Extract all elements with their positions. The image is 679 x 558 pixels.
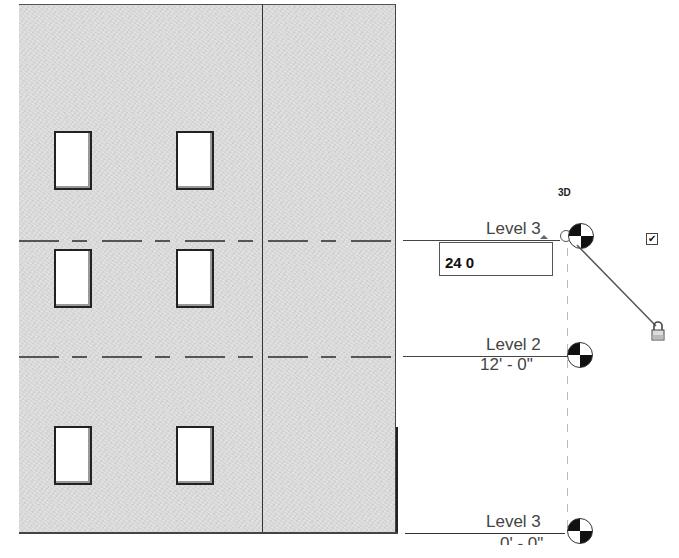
level-3-line[interactable] (19, 240, 403, 242)
level-2-elevation[interactable]: 12' - 0" (480, 355, 533, 375)
window[interactable] (176, 426, 214, 485)
level-1-head-marker[interactable] (567, 518, 593, 544)
window[interactable] (176, 249, 214, 308)
level-1-name[interactable]: Level 3 (486, 512, 541, 532)
window[interactable] (54, 131, 92, 190)
level-3-head-marker[interactable] (568, 223, 594, 249)
3d-extent-tag[interactable]: 3D (558, 187, 571, 198)
ground-line (19, 532, 398, 534)
checkbox-icon[interactable]: ✔ (646, 233, 658, 245)
level-2-line[interactable] (19, 356, 403, 358)
window[interactable] (54, 249, 92, 308)
window[interactable] (176, 131, 214, 190)
window[interactable] (54, 426, 92, 485)
level-2-head-marker[interactable] (567, 342, 593, 368)
level-3-line-tail[interactable] (403, 240, 560, 241)
wall-right-edge-thick (396, 427, 398, 533)
wall-divider-line[interactable] (262, 4, 263, 533)
level-3-name[interactable]: Level 3 (486, 219, 541, 239)
elevation-canvas[interactable]: Level 3 Level 2 12' - 0" Level 3 0' - 0"… (0, 0, 679, 558)
alignment-guide-line (567, 248, 568, 533)
level-1-elevation[interactable]: 0' - 0" (500, 533, 543, 545)
lock-icon[interactable] (651, 320, 665, 342)
level-2-name[interactable]: Level 2 (486, 335, 541, 355)
level-elevation-input[interactable] (439, 242, 553, 276)
